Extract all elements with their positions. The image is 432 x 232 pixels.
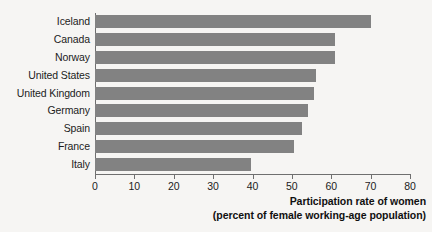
bar-fill — [95, 69, 316, 82]
bar-iceland — [95, 15, 371, 28]
x-tick-60 — [331, 174, 332, 179]
category-label-canada: Canada — [54, 33, 90, 46]
x-tick-30 — [213, 174, 214, 179]
category-label-norway: Norway — [55, 51, 90, 64]
category-label-united-states: United States — [28, 69, 90, 82]
bar-fill — [95, 104, 308, 117]
bar-fill — [95, 51, 335, 64]
category-label-france: France — [58, 140, 90, 153]
x-tick-label-70: 70 — [356, 180, 386, 192]
x-tick-label-20: 20 — [159, 180, 189, 192]
x-axis-title-line1: Participation rate of women — [0, 194, 426, 208]
category-label-iceland: Iceland — [57, 15, 90, 28]
category-label-spain: Spain — [64, 122, 90, 135]
bar-italy — [95, 158, 251, 171]
bar-united-kingdom — [95, 87, 314, 100]
bar-fill — [95, 122, 302, 135]
bar-fill — [95, 140, 294, 153]
x-axis-title-line2: (percent of female working-age populatio… — [0, 208, 426, 222]
bar-fill — [95, 158, 251, 171]
x-axis-title: Participation rate of women (percent of … — [0, 194, 426, 222]
bar-france — [95, 140, 294, 153]
x-tick-20 — [174, 174, 175, 179]
bar-norway — [95, 51, 335, 64]
bar-germany — [95, 104, 308, 117]
x-tick-70 — [371, 174, 372, 179]
category-label-italy: Italy — [71, 158, 90, 171]
x-tick-50 — [292, 174, 293, 179]
x-tick-label-60: 60 — [316, 180, 346, 192]
category-label-germany: Germany — [48, 104, 90, 117]
x-tick-label-10: 10 — [119, 180, 149, 192]
bar-fill — [95, 87, 314, 100]
bar-chart-figure: IcelandCanadaNorwayUnited StatesUnited K… — [0, 0, 432, 232]
bar-fill — [95, 33, 335, 46]
bar-canada — [95, 33, 335, 46]
x-tick-label-80: 80 — [395, 180, 425, 192]
x-tick-0 — [95, 174, 96, 179]
bar-united-states — [95, 69, 316, 82]
x-tick-label-0: 0 — [80, 180, 110, 192]
x-tick-label-50: 50 — [277, 180, 307, 192]
x-tick-10 — [134, 174, 135, 179]
x-tick-label-30: 30 — [198, 180, 228, 192]
x-tick-80 — [410, 174, 411, 179]
category-label-united-kingdom: United Kingdom — [17, 87, 90, 100]
bar-fill — [95, 15, 371, 28]
x-tick-40 — [253, 174, 254, 179]
bar-spain — [95, 122, 302, 135]
x-tick-label-40: 40 — [238, 180, 268, 192]
